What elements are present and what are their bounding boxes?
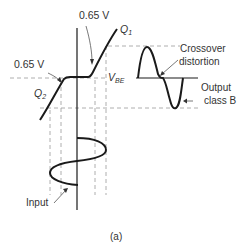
arrow-crossover	[162, 60, 178, 74]
label-input: Input	[26, 198, 48, 208]
label-crossover-1: Crossover	[180, 44, 226, 54]
label-vbe-top: 0.65 V	[79, 10, 109, 21]
label-crossover-2: distortion	[179, 57, 220, 67]
label-output-2: class B	[204, 96, 236, 106]
label-vbe-left: 0.65 V	[14, 59, 44, 70]
label-vbe-text: V	[108, 71, 115, 83]
arrow-vbe-top	[86, 26, 92, 62]
label-vbe-sub: BE	[115, 77, 124, 84]
label-q1-sub: 1	[128, 29, 132, 36]
crossover-distortion-diagram	[0, 0, 248, 245]
label-q1-text: Q	[120, 23, 128, 35]
label-vbe: VBE	[108, 72, 124, 84]
label-q2-text: Q	[34, 87, 42, 99]
label-q2: Q2	[34, 88, 46, 100]
arrow-input	[54, 190, 66, 203]
annotation-arrows	[48, 26, 193, 203]
figure-caption: (a)	[110, 232, 122, 242]
label-q2-sub: 2	[42, 93, 46, 100]
label-q1: Q1	[120, 24, 132, 36]
label-output-1: Output	[201, 83, 231, 93]
input-waveform	[50, 138, 106, 185]
